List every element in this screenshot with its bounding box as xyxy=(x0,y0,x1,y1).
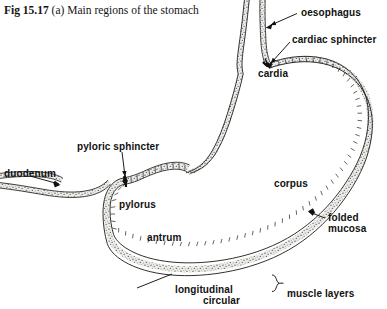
label-circular: circular xyxy=(203,295,240,307)
leader-muscle-layers xyxy=(137,274,172,288)
figure-stomach-regions: Fig 15.17 (a) Main regions of the stomac… xyxy=(0,0,387,309)
label-longitudinal: longitudinal xyxy=(175,284,233,296)
label-antrum: antrum xyxy=(147,232,182,244)
leader-oesophagus xyxy=(271,14,297,26)
label-cardiac-sphincter: cardiac sphincter xyxy=(292,34,377,46)
label-folded-mucosa-line1: folded xyxy=(328,212,359,224)
muscle-layer-group xyxy=(272,275,284,292)
leader-pyloric-sphincter xyxy=(122,152,125,176)
oesophageal-tube xyxy=(260,0,270,65)
label-duodenum: duodenum xyxy=(4,168,56,180)
label-pylorus: pylorus xyxy=(119,199,156,211)
label-cardia: cardia xyxy=(258,68,288,80)
stomach-drawing xyxy=(0,0,387,309)
lesser-curvature xyxy=(186,0,249,173)
label-pyloric-sphincter: pyloric sphincter xyxy=(77,141,159,153)
label-folded-mucosa-line2: mucosa xyxy=(328,223,366,235)
label-muscle-layers: muscle layers xyxy=(287,288,354,300)
label-corpus: corpus xyxy=(274,178,308,190)
label-oesophagus: oesophagus xyxy=(301,7,361,19)
